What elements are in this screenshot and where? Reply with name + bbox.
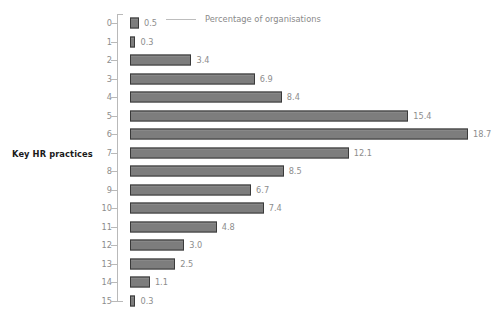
chart-row: 618.7 bbox=[0, 125, 502, 144]
y-tick-mark bbox=[111, 42, 117, 43]
y-tick-mark bbox=[111, 153, 117, 154]
bar[interactable] bbox=[130, 18, 139, 29]
chart-row: 515.4 bbox=[0, 107, 502, 126]
legend-label: Percentage of organisations bbox=[205, 14, 321, 24]
bar[interactable] bbox=[130, 258, 175, 269]
bar[interactable] bbox=[130, 129, 468, 140]
bar-value-label: 18.7 bbox=[473, 129, 491, 139]
bar[interactable] bbox=[130, 92, 282, 103]
chart-row: 36.9 bbox=[0, 70, 502, 89]
bar-value-label: 2.5 bbox=[180, 259, 193, 269]
bar[interactable] bbox=[130, 147, 349, 158]
y-tick-label: 12 bbox=[92, 240, 112, 250]
chart-row: 114.8 bbox=[0, 218, 502, 237]
bar[interactable] bbox=[130, 55, 191, 66]
y-tick-label: 1 bbox=[92, 37, 112, 47]
bar-value-label: 0.3 bbox=[140, 37, 153, 47]
bar[interactable] bbox=[130, 166, 284, 177]
bar-value-label: 7.4 bbox=[269, 203, 282, 213]
chart-row: 10.3 bbox=[0, 33, 502, 52]
y-tick-mark bbox=[111, 245, 117, 246]
bar-value-label: 3.4 bbox=[196, 55, 209, 65]
bar[interactable] bbox=[130, 184, 251, 195]
y-tick-mark bbox=[111, 171, 117, 172]
bar-value-label: 0.3 bbox=[140, 296, 153, 306]
y-tick-label: 6 bbox=[92, 129, 112, 139]
bar-value-label: 1.1 bbox=[155, 277, 168, 287]
y-tick-mark bbox=[111, 97, 117, 98]
chart-row: 141.1 bbox=[0, 273, 502, 292]
y-tick-mark bbox=[111, 134, 117, 135]
y-tick-label: 5 bbox=[92, 111, 112, 121]
y-tick-label: 10 bbox=[92, 203, 112, 213]
y-tick-mark bbox=[111, 23, 117, 24]
chart-row: 712.1 bbox=[0, 144, 502, 163]
bar-value-label: 8.5 bbox=[289, 166, 302, 176]
y-tick-label: 0 bbox=[92, 18, 112, 28]
bar[interactable] bbox=[130, 203, 264, 214]
y-tick-mark bbox=[111, 301, 117, 302]
legend-line-swatch bbox=[166, 19, 196, 20]
bar[interactable] bbox=[130, 73, 255, 84]
chart-legend: Percentage of organisations bbox=[166, 13, 321, 25]
y-tick-mark bbox=[111, 190, 117, 191]
y-tick-label: 3 bbox=[92, 74, 112, 84]
chart-row: 107.4 bbox=[0, 199, 502, 218]
y-tick-mark bbox=[111, 227, 117, 228]
bar-value-label: 6.9 bbox=[260, 74, 273, 84]
bar-value-label: 15.4 bbox=[413, 111, 431, 121]
y-tick-mark bbox=[111, 208, 117, 209]
bar-value-label: 4.8 bbox=[222, 222, 235, 232]
y-tick-mark bbox=[111, 282, 117, 283]
chart-row: 132.5 bbox=[0, 255, 502, 274]
bar[interactable] bbox=[130, 240, 184, 251]
chart-row: 23.4 bbox=[0, 51, 502, 70]
y-tick-label: 7 bbox=[92, 148, 112, 158]
bar-value-label: 8.4 bbox=[287, 92, 300, 102]
y-tick-mark bbox=[111, 79, 117, 80]
y-tick-mark bbox=[111, 264, 117, 265]
chart-row: 123.0 bbox=[0, 236, 502, 255]
bar[interactable] bbox=[130, 36, 135, 47]
chart-row: 88.5 bbox=[0, 162, 502, 181]
y-tick-label: 2 bbox=[92, 55, 112, 65]
chart-row: 48.4 bbox=[0, 88, 502, 107]
chart-row: 96.7 bbox=[0, 181, 502, 200]
y-tick-label: 13 bbox=[92, 259, 112, 269]
bar[interactable] bbox=[130, 110, 408, 121]
y-tick-mark bbox=[111, 60, 117, 61]
y-tick-label: 4 bbox=[92, 92, 112, 102]
bar-value-label: 12.1 bbox=[354, 148, 372, 158]
bar[interactable] bbox=[130, 295, 135, 306]
bar-value-label: 0.5 bbox=[144, 18, 157, 28]
y-tick-label: 15 bbox=[92, 296, 112, 306]
y-tick-label: 9 bbox=[92, 185, 112, 195]
y-tick-label: 11 bbox=[92, 222, 112, 232]
bar[interactable] bbox=[130, 277, 150, 288]
bar-value-label: 3.0 bbox=[189, 240, 202, 250]
y-tick-mark bbox=[111, 116, 117, 117]
bar-chart: Key HR practices 00.510.323.436.948.4515… bbox=[0, 0, 502, 321]
y-tick-label: 14 bbox=[92, 277, 112, 287]
bar[interactable] bbox=[130, 221, 217, 232]
chart-row: 150.3 bbox=[0, 292, 502, 311]
bar-value-label: 6.7 bbox=[256, 185, 269, 195]
y-tick-label: 8 bbox=[92, 166, 112, 176]
